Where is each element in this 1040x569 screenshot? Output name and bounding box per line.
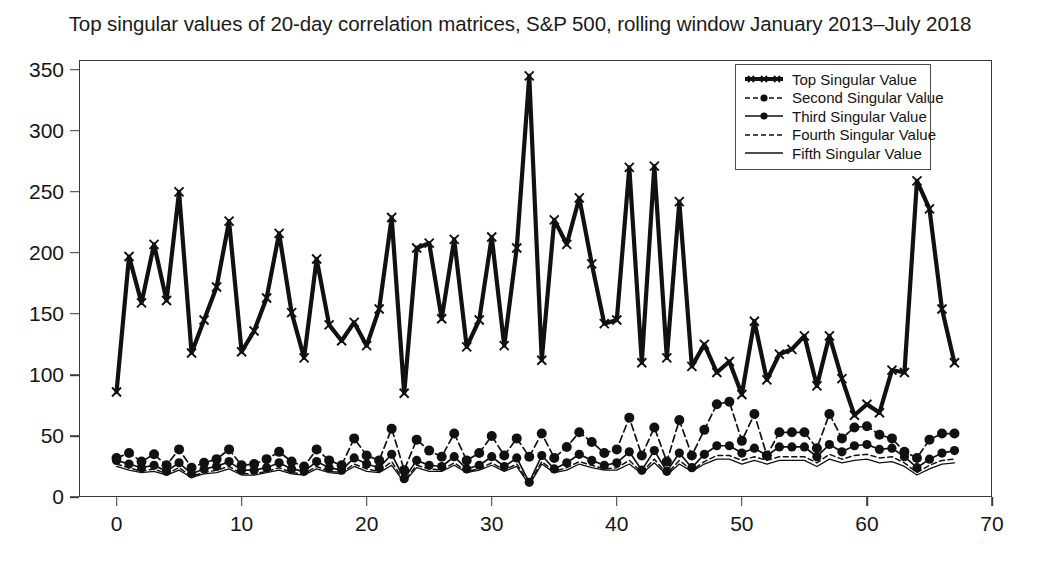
data-point [849,422,859,432]
y-axis: 050100150200250300350 [0,0,72,569]
legend-label: Third Singular Value [792,109,927,124]
legend-label: Fourth Singular Value [792,127,936,142]
legend-swatch-icon [743,91,785,105]
data-point [937,429,947,439]
data-point [674,415,684,425]
data-point [524,452,534,462]
data-point [275,458,284,467]
data-point [675,448,684,457]
legend-item-5[interactable]: Fifth Singular Value [743,144,923,163]
data-point [812,443,822,453]
x-tick-label: 60 [855,512,878,536]
data-point [887,433,897,443]
legend-swatch-icon [743,72,785,86]
data-point [737,436,747,446]
x-tick-mark [991,497,993,506]
data-point [587,456,596,465]
data-point [712,441,721,450]
x-tick-mark [491,497,493,506]
data-point [174,458,183,467]
x-tick-label: 0 [111,512,123,536]
data-point [512,453,521,462]
data-point [449,429,459,439]
data-point [325,463,334,472]
legend-swatch-icon [743,128,785,142]
y-tick-mark [70,435,79,437]
x-tick-label: 20 [355,512,378,536]
chart-legend: Top Singular ValueSecond Singular ValueT… [735,64,931,170]
legend-item-2[interactable]: Second Singular Value [743,89,923,108]
x-tick-label: 10 [230,512,253,536]
data-point [124,448,134,458]
y-tick-mark [70,252,79,254]
data-point [887,444,896,453]
chart-title: Top singular values of 20-day correlatio… [0,12,1040,36]
data-point [874,430,884,440]
legend-label: Top Singular Value [792,72,917,87]
data-point [587,437,597,447]
data-point [512,433,522,443]
data-point [649,422,659,432]
data-point [450,452,459,461]
data-point [625,447,634,456]
y-tick-mark [70,130,79,132]
data-point [799,427,809,437]
data-point [412,435,422,445]
data-point [924,435,934,445]
data-point [487,431,497,441]
data-point [700,450,709,459]
data-point [837,433,847,443]
data-point [725,441,734,450]
y-tick-mark [70,496,79,498]
data-point [912,453,922,463]
legend-label: Fifth Singular Value [792,146,922,161]
data-point [562,442,572,452]
legend-swatch-icon [743,146,785,160]
y-tick-mark [70,313,79,315]
x-tick-label: 70 [980,512,1003,536]
legend-swatch-icon [743,109,785,123]
y-tick-mark [70,374,79,376]
data-point [537,429,547,439]
data-point [537,451,546,460]
legend-item-4[interactable]: Fourth Singular Value [743,126,923,145]
data-point [274,447,284,457]
data-point [787,442,796,451]
data-point [900,452,909,461]
data-point [312,457,321,466]
data-point [599,448,609,458]
data-point [612,444,622,454]
data-point [862,440,871,449]
data-point [637,451,647,461]
data-point [575,450,584,459]
data-point [737,448,746,457]
x-tick-mark [241,497,243,506]
data-point [612,458,621,467]
y-tick-label: 150 [0,302,64,326]
data-point [624,413,634,423]
y-tick-label: 0 [0,485,64,509]
legend-item-1[interactable]: Top Singular Value [743,70,923,89]
data-point [312,444,322,454]
x-tick-mark [116,497,118,506]
data-point [149,449,159,459]
data-point [937,448,946,457]
data-point [349,433,359,443]
data-point [824,409,834,419]
data-point [549,453,559,463]
data-point [925,455,934,464]
data-point [825,440,834,449]
data-point [650,446,659,455]
y-tick-label: 350 [0,58,64,82]
data-point [387,424,397,434]
data-point [724,397,734,407]
y-tick-label: 100 [0,363,64,387]
x-tick-label: 30 [480,512,503,536]
legend-item-3[interactable]: Third Singular Value [743,107,923,126]
y-tick-mark [70,69,79,71]
data-point [699,425,709,435]
data-point [574,427,584,437]
data-point [412,456,421,465]
data-point [712,399,722,409]
data-point [387,450,396,459]
